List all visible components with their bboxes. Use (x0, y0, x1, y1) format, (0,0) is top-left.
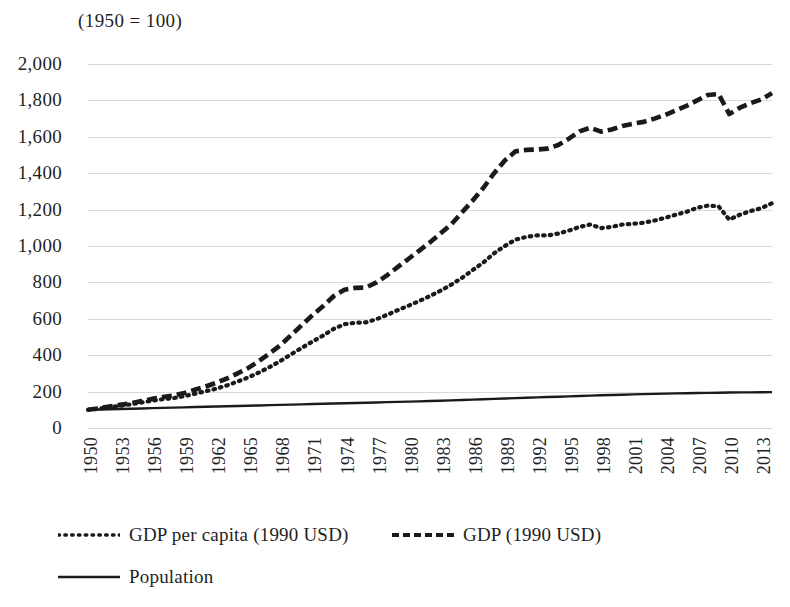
legend-label-population: Population (129, 566, 213, 588)
y-tick-label: 600 (0, 308, 62, 330)
y-tick-label: 1,200 (0, 199, 62, 221)
x-tick-label: 1971 (305, 437, 326, 474)
y-tick-label: 800 (0, 271, 62, 293)
x-tick-label: 1995 (562, 437, 583, 474)
x-tick-label: 2001 (626, 437, 647, 474)
x-tick-label: 1953 (113, 437, 134, 474)
legend-label-gdp-per-capita: GDP per capita (1990 USD) (129, 524, 349, 546)
y-tick-label: 1,400 (0, 162, 62, 184)
series-line-gdp-per-capita-1990-usd (88, 203, 772, 410)
x-tick-label: 2004 (658, 437, 679, 474)
x-tick-label: 1998 (594, 437, 615, 474)
gridline (88, 428, 772, 429)
x-tick-label: 2010 (722, 437, 743, 474)
x-tick-label: 2013 (754, 437, 775, 474)
x-tick-label: 1974 (338, 437, 359, 474)
x-tick-label: 2007 (690, 437, 711, 474)
y-tick-label: 1,800 (0, 89, 62, 111)
x-tick-label: 1956 (145, 437, 166, 474)
y-tick-label: 200 (0, 381, 62, 403)
x-tick-label: 1968 (273, 437, 294, 474)
legend-swatch-dashed-icon (392, 528, 454, 542)
chart-title: (1950 = 100) (78, 10, 182, 32)
x-tick-label: 1977 (370, 437, 391, 474)
x-tick-label: 1959 (177, 437, 198, 474)
legend-item-gdp: GDP (1990 USD) (392, 524, 601, 546)
x-tick-label: 1989 (498, 437, 519, 474)
legend-swatch-dotted-icon (58, 528, 120, 542)
plot-area (88, 64, 772, 428)
x-tick-label: 1965 (241, 437, 262, 474)
chart-figure: (1950 = 100) 02004006008001,0001,2001,40… (0, 0, 790, 607)
y-tick-label: 0 (0, 417, 62, 439)
legend-item-population: Population (58, 566, 213, 588)
legend-swatch-solid-icon (58, 570, 120, 584)
legend-item-gdp-per-capita: GDP per capita (1990 USD) (58, 524, 349, 546)
series-lines (88, 64, 772, 428)
y-tick-label: 2,000 (0, 53, 62, 75)
y-tick-label: 400 (0, 344, 62, 366)
x-tick-label: 1962 (209, 437, 230, 474)
legend-label-gdp: GDP (1990 USD) (463, 524, 601, 546)
y-tick-label: 1,600 (0, 126, 62, 148)
x-tick-label: 1980 (402, 437, 423, 474)
x-tick-label: 1992 (530, 437, 551, 474)
y-tick-label: 1,000 (0, 235, 62, 257)
x-tick-label: 1950 (81, 437, 102, 474)
series-line-gdp-1990-usd (88, 93, 772, 410)
x-tick-label: 1983 (434, 437, 455, 474)
x-tick-label: 1986 (466, 437, 487, 474)
